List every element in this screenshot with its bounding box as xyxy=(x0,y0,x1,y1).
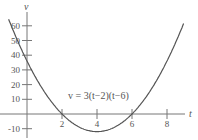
svg-text:30: 30 xyxy=(11,65,21,75)
svg-text:4: 4 xyxy=(95,119,100,129)
chart: 2468-10102030405060 v t v = 3(t−2)(t−6) xyxy=(0,0,198,140)
svg-text:6: 6 xyxy=(130,119,135,129)
equation-label: v = 3(t−2)(t−6) xyxy=(68,90,129,102)
svg-text:8: 8 xyxy=(165,119,170,129)
svg-text:10: 10 xyxy=(11,94,21,104)
axis-ticks xyxy=(22,26,167,129)
svg-text:-10: -10 xyxy=(8,124,20,134)
x-axis-label: t xyxy=(189,108,192,119)
y-axis-label: v xyxy=(24,1,29,12)
parabola-curve xyxy=(9,19,184,131)
tick-labels: 2468-10102030405060 xyxy=(8,21,170,134)
svg-text:40: 40 xyxy=(11,50,21,60)
svg-text:2: 2 xyxy=(60,119,65,129)
svg-text:20: 20 xyxy=(11,80,21,90)
